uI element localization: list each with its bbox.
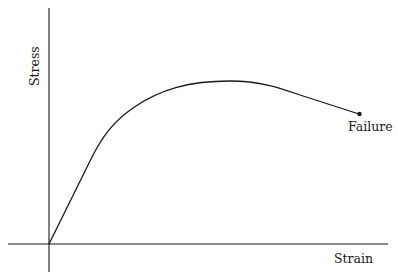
stress-strain-curve [49, 81, 359, 244]
failure-point-marker [357, 112, 361, 116]
x-axis-label: Strain [334, 251, 373, 266]
y-axis-label: Stress [27, 46, 42, 86]
stress-strain-diagram: Stress Strain Failure [0, 0, 398, 279]
failure-label: Failure [348, 119, 393, 134]
